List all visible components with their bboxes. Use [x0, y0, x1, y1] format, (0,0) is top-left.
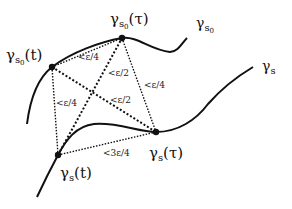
- point-gamma-s-tau: [153, 129, 159, 135]
- edge-label-right: <ε/4: [144, 80, 165, 90]
- edge-label-top: <ε/4: [78, 52, 99, 62]
- segment-left: [52, 67, 58, 155]
- point-gamma-s0-tau: [119, 35, 125, 41]
- label-gamma-s-t: γs(t): [60, 164, 92, 183]
- point-gamma-s0-t: [49, 64, 55, 70]
- edge-label-diag-down: <ε/2: [110, 95, 131, 105]
- label-curve-gamma-s0: γs0: [196, 15, 214, 35]
- edge-label-bottom: <3ε/4: [103, 148, 130, 158]
- distance-segments: [52, 38, 156, 155]
- label-gamma-s-tau: γs(τ): [149, 144, 183, 163]
- diagram-canvas: γs0(t) γs0(τ) γs(t) γs(τ) γs0 γs <ε/4 <ε…: [0, 0, 292, 209]
- label-gamma-s0-t: γs0(t): [6, 46, 42, 67]
- label-curve-gamma-s: γs: [262, 58, 276, 76]
- label-gamma-s0-tau: γs0(τ): [110, 10, 149, 31]
- point-gamma-s-t: [55, 152, 61, 158]
- edge-label-diag-up: <ε/2: [108, 68, 129, 78]
- edge-label-left: <ε/4: [56, 98, 77, 108]
